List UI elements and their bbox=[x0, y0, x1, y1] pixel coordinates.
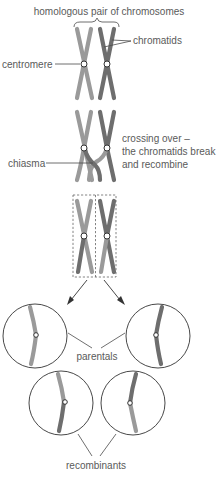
pair-brace bbox=[74, 18, 119, 27]
leader-recombinants-right bbox=[100, 434, 116, 456]
label-crossing-over-1: crossing over – bbox=[122, 133, 190, 144]
centromere-parental-left bbox=[34, 333, 39, 338]
arrow-left bbox=[71, 280, 87, 300]
label-crossing-over-3: and recombine bbox=[122, 159, 189, 170]
label-chromatids: chromatids bbox=[133, 35, 182, 46]
stage-recombinants: recombinants bbox=[29, 371, 165, 471]
centromere-marker bbox=[81, 61, 87, 67]
chromosome-light bbox=[77, 29, 92, 98]
centromere-marker-co-left bbox=[81, 145, 87, 151]
label-parentals: parentals bbox=[76, 351, 117, 362]
centromere-recombinant-left bbox=[63, 400, 68, 405]
centromere-parental-right bbox=[154, 333, 159, 338]
leader-chromatids-2 bbox=[112, 40, 131, 41]
centromere-marker-rec-left bbox=[81, 233, 87, 239]
centromere-marker-co-right bbox=[104, 145, 110, 151]
chromosome-dark bbox=[100, 29, 114, 98]
label-centromere: centromere bbox=[2, 59, 53, 70]
centromere-marker-rec-right bbox=[104, 233, 110, 239]
meiosis-crossing-over-diagram: homologous pair of chromosomes centromer… bbox=[0, 0, 218, 477]
centromere-recombinant-right bbox=[128, 401, 133, 406]
leader-parentals-right bbox=[101, 333, 125, 348]
leader-chromatids-1 bbox=[104, 41, 131, 47]
stage-recombined-pair bbox=[73, 195, 116, 277]
arrow-right bbox=[104, 280, 120, 300]
label-chiasma: chiasma bbox=[8, 158, 46, 169]
division-arrows bbox=[67, 280, 125, 305]
leader-recombinants-left bbox=[78, 434, 92, 456]
label-crossing-over-2: the chromatids break bbox=[122, 146, 216, 157]
label-recombinants: recombinants bbox=[66, 460, 126, 471]
leader-parentals-left bbox=[68, 333, 92, 348]
centromere-marker-dark bbox=[104, 61, 110, 67]
stage-crossing-over: crossing over – the chromatids break and… bbox=[8, 112, 216, 180]
title-homologous-pair: homologous pair of chromosomes bbox=[34, 6, 185, 17]
stage-parentals: parentals bbox=[3, 304, 190, 368]
stage-homologous-pair: homologous pair of chromosomes centromer… bbox=[2, 6, 184, 98]
